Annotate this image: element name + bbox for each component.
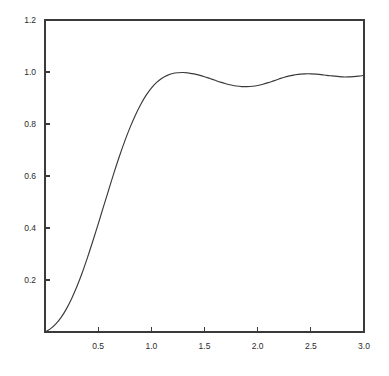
step-response-line-chart: 0.20.40.60.81.01.2 0.51.01.52.02.53.0 (0, 0, 389, 376)
chart-figure: 0.20.40.60.81.01.2 0.51.01.52.02.53.0 (0, 0, 389, 376)
x-tick-label: 2.5 (305, 341, 317, 351)
y-tick-label: 0.6 (24, 171, 36, 181)
x-tick-label: 2.0 (252, 341, 264, 351)
y-axis-tick-labels: 0.20.40.60.81.01.2 (24, 15, 36, 285)
y-tick-label: 1.2 (24, 15, 36, 25)
x-tick-label: 3.0 (358, 341, 370, 351)
x-axis-tick-labels: 0.51.01.52.02.53.0 (92, 341, 370, 351)
y-tick-label: 0.2 (24, 275, 36, 285)
y-tick-label: 1.0 (24, 67, 36, 77)
x-tick-label: 1.5 (199, 341, 211, 351)
x-tick-label: 1.0 (145, 341, 157, 351)
y-tick-label: 0.8 (24, 119, 36, 129)
plot-area-background (45, 20, 364, 332)
y-tick-label: 0.4 (24, 223, 36, 233)
x-tick-label: 0.5 (92, 341, 104, 351)
